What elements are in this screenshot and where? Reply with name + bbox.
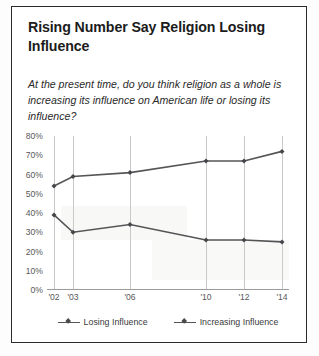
x-tick-label: '14 [276,292,287,302]
data-point-marker [280,149,285,154]
chart-subtitle: At the present time, do you think religi… [28,76,284,124]
data-point-marker [128,170,133,175]
line-marker-icon [58,318,80,326]
y-tick-label: 10% [9,266,43,276]
series-lines [47,136,289,290]
y-tick-label: 0% [9,285,43,295]
chart-figure: Rising Number Say Religion Losing Influe… [0,0,319,356]
legend-label: Increasing Influence [200,317,279,327]
x-tick-label: '02 [48,292,59,302]
chart-legend: Losing Influence Increasing Influence [47,313,289,331]
data-point-marker [280,239,285,244]
y-axis-labels: 0%10%20%30%40%50%60%70%80% [5,136,43,290]
y-tick-label: 30% [9,227,43,237]
x-tick-label: '10 [200,292,211,302]
legend-item-losing-influence: Losing Influence [58,317,148,327]
x-tick-label: '06 [124,292,135,302]
x-tick-label: '12 [238,292,249,302]
plot-area [47,136,289,290]
series-line [54,215,282,242]
chart-title: Rising Number Say Religion Losing Influe… [28,18,286,55]
legend-label: Losing Influence [84,317,148,327]
x-tick-label: '03 [67,292,78,302]
data-point-marker [204,159,209,164]
y-tick-label: 20% [9,247,43,257]
y-tick-label: 80% [9,131,43,141]
x-axis-labels: '02'03'06'10'12'14 [47,292,289,306]
series-line [54,151,282,186]
data-point-marker [242,237,247,242]
y-tick-label: 40% [9,208,43,218]
y-tick-label: 60% [9,170,43,180]
data-point-marker [242,159,247,164]
data-point-marker [128,222,133,227]
y-tick-label: 50% [9,189,43,199]
line-marker-icon [174,318,196,326]
y-tick-label: 70% [9,150,43,160]
data-point-marker [204,237,209,242]
legend-item-increasing-influence: Increasing Influence [174,317,279,327]
